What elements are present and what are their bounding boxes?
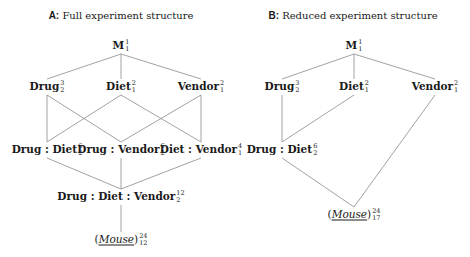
panel-b-node-drug: Drug32 [265,81,300,94]
node-df-scripts: 21 [454,80,458,93]
node-label: Diet [106,80,131,92]
panel-a-node-mouse: (Mouse)2412 [95,234,148,247]
node-df-scripts: 11 [125,39,129,52]
panel-a-node-diet: Diet21 [106,81,136,94]
node-df-sub: 2 [295,86,299,93]
panel-b-node-vendor: Vendor21 [412,81,459,94]
panel-a-node-drugdiet: Drug : Diet62 [12,144,83,157]
node-df-sub: 2 [176,196,184,203]
edge-m-drug [282,54,354,79]
node-df-scripts: 21 [132,80,136,93]
close-paren: ) [134,233,138,245]
node-df-sub: 12 [139,239,147,246]
node-df-scripts: 2417 [372,208,380,221]
node-label: M [113,39,125,51]
node-df-scripts: 21 [365,80,369,93]
node-label: Drug : Diet [12,143,77,155]
panel-a-node-drugdietvendor: Drug : Diet : Vendor122 [57,191,184,204]
panel-b-node-m: M11 [346,40,363,53]
edge-dietvendor-drugdietvendor [121,158,201,189]
node-df-scripts: 11 [358,39,362,52]
node-label: Drug : Diet [247,143,312,155]
close-paren: ) [367,208,371,220]
panel-a-node-m: M11 [113,40,130,53]
node-df-sub: 2 [60,86,64,93]
node-label: Mouse [332,208,367,220]
panel-b-node-diet: Diet21 [339,81,369,94]
node-label: Drug [30,80,60,92]
edge-m-vendor [354,54,435,79]
node-df-sub: 17 [372,214,380,221]
node-label: Mouse [99,233,134,245]
node-df-sub: 2 [313,149,317,156]
panel-a-node-dietvendor: Diet : Vendor41 [160,144,242,157]
edge-m-vendor [121,54,201,79]
node-df-sub: 1 [125,45,129,52]
node-label: Vendor [412,80,453,92]
edge-drugdiet-drugdietvendor [47,158,121,189]
node-df-sub: 1 [454,86,458,93]
node-label: Vendor [178,80,219,92]
node-df-sub: 1 [238,149,242,156]
edge-m-drug [47,54,121,79]
panel-a-node-drug: Drug32 [30,81,65,94]
node-df-scripts: 62 [313,143,317,156]
node-df-scripts: 122 [176,190,184,203]
edge-diet-drugdiet [282,95,354,142]
edge-drugdiet-mouse [282,158,354,207]
node-label: M [346,39,358,51]
panel-b-node-mouse: (Mouse)2417 [328,209,381,222]
node-label: Drug : Diet : Vendor [57,190,175,202]
edge-vendor-mouse [354,95,435,207]
panel-a-node-vendor: Vendor21 [178,81,225,94]
panel-b-node-drugdiet: Drug : Diet62 [247,144,318,157]
hasse-diagram-edges [0,0,470,257]
node-label: Drug [265,80,295,92]
node-df-scripts: 32 [60,80,64,93]
panel-a-node-drugvendor: Drug : Vendor62 [77,144,164,157]
node-df-sub: 1 [358,45,362,52]
node-df-scripts: 32 [295,80,299,93]
node-df-scripts: 21 [220,80,224,93]
node-label: Diet : Vendor [160,143,237,155]
node-label: Drug : Vendor [77,143,159,155]
node-df-sub: 1 [220,86,224,93]
node-label: Diet [339,80,364,92]
node-df-scripts: 41 [238,143,242,156]
node-df-sub: 1 [132,86,136,93]
node-df-scripts: 2412 [139,233,147,246]
node-df-sub: 1 [365,86,369,93]
